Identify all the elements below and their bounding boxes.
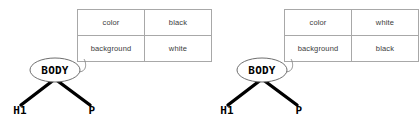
tree-graphic-left: BODY H1 P: [0, 0, 207, 122]
branch-to-p: [55, 79, 90, 105]
leaf-node-label-h1: H1: [13, 104, 27, 117]
root-node-label: BODY: [41, 64, 68, 77]
diagram-right: color white background black BODY H1 P: [207, 0, 414, 122]
root-node-label: BODY: [248, 64, 275, 77]
diagram-left: color black background white BODY H1 P: [0, 0, 207, 122]
leaf-node-label-p: P: [89, 104, 96, 117]
leaf-node-label-h1: H1: [220, 104, 234, 117]
leaf-node-label-p: P: [296, 104, 303, 117]
branch-to-p: [262, 79, 297, 105]
branch-to-h1: [228, 79, 262, 105]
branch-to-h1: [21, 79, 55, 105]
tree-graphic-right: BODY H1 P: [207, 0, 414, 122]
